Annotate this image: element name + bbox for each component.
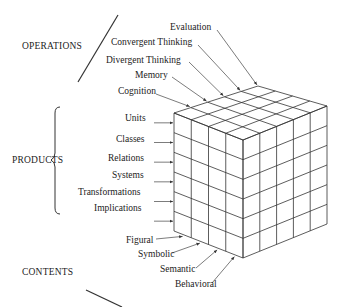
product-systems: Systems xyxy=(112,171,144,181)
operation-divergent: Divergent Thinking xyxy=(106,56,181,66)
content-figural: Figural xyxy=(126,236,153,246)
product-classes: Classes xyxy=(116,135,145,145)
content-behavioral: Behavioral xyxy=(175,280,217,290)
products-label: PRODUCTS xyxy=(12,156,63,166)
contents-slash xyxy=(86,290,122,307)
operations-slash xyxy=(78,15,118,82)
product-implications: Implications xyxy=(94,204,142,214)
content-semantic: Semantic xyxy=(160,265,195,275)
product-transformations: Transformations xyxy=(78,188,140,198)
product-relations: Relations xyxy=(108,154,144,164)
operation-convergent: Convergent Thinking xyxy=(111,38,192,48)
operation-cognition: Cognition xyxy=(118,87,156,97)
contents-label: CONTENTS xyxy=(22,268,73,278)
content-symbolic: Symbolic xyxy=(138,250,174,260)
operations-label: OPERATIONS xyxy=(22,42,82,52)
product-units: Units xyxy=(125,114,146,124)
operation-memory: Memory xyxy=(135,71,168,81)
operation-evaluation: Evaluation xyxy=(170,23,211,33)
